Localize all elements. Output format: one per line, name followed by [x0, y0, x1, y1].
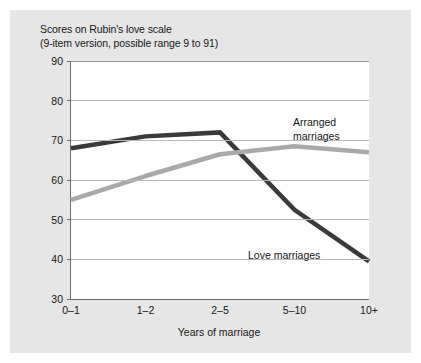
y-axis-label-30: 30 [51, 293, 63, 305]
x-axis-label-3: 5–10 [283, 304, 306, 316]
line-love-marriages [71, 146, 369, 200]
y-axis-label-50: 50 [51, 214, 63, 226]
chart-figure: Scores on Rubin's love scale (9-item ver… [10, 10, 411, 353]
y-axis-label-60: 60 [51, 174, 63, 186]
gridline-80 [71, 100, 369, 101]
y-tick-mark-70 [67, 140, 71, 141]
y-tick-mark-80 [67, 100, 71, 101]
annotation-love-marriages: Love marriages [248, 249, 320, 263]
gridline-60 [71, 180, 369, 181]
y-tick-mark-90 [67, 61, 71, 62]
x-axis-label-2: 2–5 [211, 304, 229, 316]
x-axis-label-4: 10+ [360, 304, 378, 316]
plot-area: 304050607080900–11–22–55–1010+ [70, 61, 369, 300]
y-axis-label-70: 70 [51, 134, 63, 146]
y-tick-mark-60 [67, 180, 71, 181]
y-tick-mark-30 [67, 299, 71, 300]
annotation-arranged-line-2: marriages [293, 130, 340, 144]
annotation-arranged-marriages: Arranged marriages [293, 116, 340, 143]
chart-title: Scores on Rubin's love scale (9-item ver… [40, 23, 218, 51]
y-axis-label-40: 40 [51, 253, 63, 265]
annotation-arranged-line-1: Arranged [293, 116, 340, 130]
x-axis-title: Years of marriage [70, 326, 368, 338]
x-axis-label-0: 0–1 [62, 304, 80, 316]
x-axis-label-1: 1–2 [137, 304, 155, 316]
line-arranged-marriages [71, 132, 369, 261]
gridline-90 [71, 61, 369, 62]
gridline-50 [71, 219, 369, 220]
y-axis-label-90: 90 [51, 55, 63, 67]
y-tick-mark-40 [67, 259, 71, 260]
y-axis-label-80: 80 [51, 95, 63, 107]
chart-title-line-2: (9-item version, possible range 9 to 91) [40, 37, 218, 51]
gridline-40 [71, 259, 369, 260]
y-tick-mark-50 [67, 219, 71, 220]
chart-title-line-1: Scores on Rubin's love scale [40, 23, 218, 37]
annotation-love-line-1: Love marriages [248, 249, 320, 263]
